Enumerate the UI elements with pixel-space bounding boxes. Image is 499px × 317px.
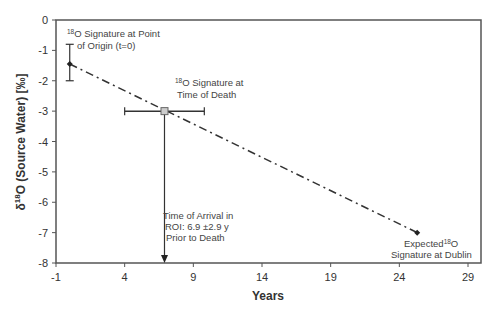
x-tick-label: 29 bbox=[462, 271, 474, 283]
annotation-death: 18O Signature at bbox=[175, 77, 244, 88]
annotation-arrival-3: Prior to Death bbox=[166, 232, 225, 243]
y-axis-title: δ18O (Source Water) [‰] bbox=[13, 73, 28, 210]
x-axis-title: Years bbox=[252, 289, 284, 303]
y-tick-label: -4 bbox=[38, 136, 48, 148]
y-axis: 0-1-2-3-4-5-6-7-8 bbox=[38, 14, 56, 269]
x-tick-label: 9 bbox=[190, 271, 196, 283]
y-tick-label: 0 bbox=[42, 14, 48, 26]
annotation-death-line2: Time of Death bbox=[177, 89, 236, 100]
x-tick-label: 19 bbox=[325, 271, 337, 283]
annotation-arrival-1: Time of Arrival in bbox=[163, 210, 233, 221]
y-tick-label: -3 bbox=[38, 105, 48, 117]
y-tick-label: -5 bbox=[38, 166, 48, 178]
x-tick-label: 24 bbox=[393, 271, 405, 283]
annotation-dublin: Expected18O bbox=[404, 238, 458, 249]
annotation-arrival-2: ROI: 6.9 ±2.9 y bbox=[165, 221, 229, 232]
square-marker bbox=[161, 108, 168, 115]
plot-area bbox=[56, 20, 481, 263]
x-tick-label: -1 bbox=[51, 271, 61, 283]
annotation-dublin-line2: Signature at Dublin bbox=[391, 249, 472, 260]
x-tick-label: 4 bbox=[122, 271, 128, 283]
y-tick-label: -2 bbox=[38, 75, 48, 87]
y-tick-label: -6 bbox=[38, 196, 48, 208]
y-tick-label: -7 bbox=[38, 227, 48, 239]
annotation-origin: 18O Signature at Point bbox=[67, 28, 160, 39]
y-tick-label: -1 bbox=[38, 44, 48, 56]
x-tick-label: 14 bbox=[256, 271, 268, 283]
annotation-origin-line2: of Origin (t=0) bbox=[77, 40, 135, 51]
chart: 0-1-2-3-4-5-6-7-8 -14914192429 Years δ18… bbox=[0, 0, 499, 317]
y-tick-label: -8 bbox=[38, 257, 48, 269]
x-axis: -14914192429 bbox=[51, 263, 474, 283]
